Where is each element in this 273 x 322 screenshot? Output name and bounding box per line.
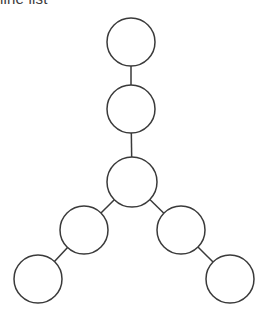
tree-node[interactable] <box>14 255 62 303</box>
node-layer <box>14 18 254 303</box>
node-circle[interactable] <box>107 157 157 207</box>
tree-edge <box>198 247 213 262</box>
node-circle[interactable] <box>157 206 205 254</box>
node-circle[interactable] <box>107 18 155 66</box>
node-link-tree <box>0 0 273 322</box>
node-circle[interactable] <box>14 255 62 303</box>
node-circle[interactable] <box>206 255 254 303</box>
node-circle[interactable] <box>60 206 108 254</box>
tree-node[interactable] <box>107 157 157 207</box>
tree-edge <box>101 200 114 213</box>
tree-edge <box>54 248 67 262</box>
tree-node[interactable] <box>107 85 155 133</box>
tree-node[interactable] <box>157 206 205 254</box>
tree-edge <box>150 199 164 213</box>
diagram-canvas: line list <box>0 0 273 322</box>
node-circle[interactable] <box>107 85 155 133</box>
tree-node[interactable] <box>60 206 108 254</box>
tree-node[interactable] <box>107 18 155 66</box>
tree-node[interactable] <box>206 255 254 303</box>
